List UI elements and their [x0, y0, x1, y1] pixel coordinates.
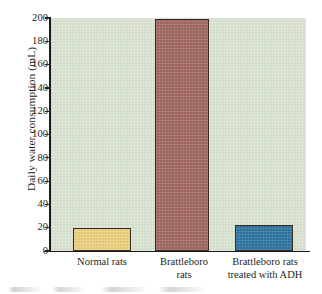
y-tick-label: 140: [8, 83, 48, 94]
y-tick-label: 0: [8, 246, 48, 257]
bar-2: [155, 19, 209, 251]
category-label-1: Normal rats: [56, 256, 148, 269]
y-tick-label: 200: [8, 13, 48, 24]
category-label-line: treated with ADH: [214, 269, 316, 282]
y-tick-label: 20: [8, 222, 48, 233]
bar-3: [235, 225, 293, 251]
cropped-caption-ink: [8, 287, 248, 292]
category-label-line: Normal rats: [56, 256, 148, 269]
bar-texture: [156, 20, 208, 250]
y-tick-label: 100: [8, 129, 48, 140]
y-tick-label: 120: [8, 106, 48, 117]
y-tick-label: 160: [8, 59, 48, 70]
plot-area: [50, 18, 306, 251]
category-label-line: Brattleboro rats: [214, 256, 316, 269]
y-tick-label: 40: [8, 199, 48, 210]
y-tick-label: 60: [8, 176, 48, 187]
y-tick-label: 80: [8, 153, 48, 164]
bar-chart-figure: Daily water consumption (mL) 02040608010…: [0, 0, 322, 294]
y-tick-label: 180: [8, 36, 48, 47]
bar-texture: [236, 226, 292, 250]
bar-texture: [74, 229, 130, 250]
bar-1: [73, 228, 131, 251]
category-label-3: Brattleboro ratstreated with ADH: [214, 256, 316, 281]
x-axis-line: [44, 251, 310, 253]
